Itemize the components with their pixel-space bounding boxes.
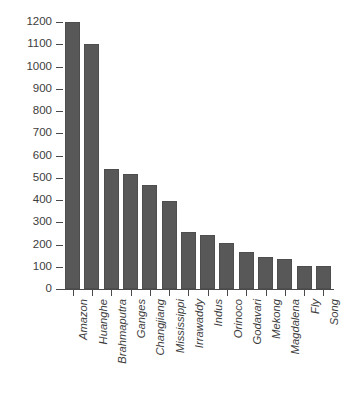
y-axis-tick-label: 1000 [26, 61, 52, 73]
y-axis-tick [56, 67, 63, 68]
y-axis-tick [56, 222, 63, 223]
y-axis-tick-label: 0 [46, 283, 52, 295]
bar [219, 243, 234, 289]
x-axis-tick-label: Amazon [77, 299, 90, 397]
x-axis-tick [266, 290, 267, 296]
y-axis-tick-label: 200 [33, 239, 52, 251]
bar [104, 169, 119, 289]
x-axis-tick [169, 290, 170, 296]
x-axis-tick [111, 290, 112, 296]
bar [181, 232, 196, 289]
y-axis-tick-label: 500 [33, 172, 52, 184]
bar [123, 174, 138, 289]
x-axis-tick-label: Brahmaputra [116, 299, 129, 397]
bar [142, 185, 157, 289]
y-axis-tick [56, 133, 63, 134]
y-axis-tick-label: 400 [33, 194, 52, 206]
bar [258, 257, 273, 289]
bar [297, 266, 312, 289]
x-axis-tick-label: Indus [212, 299, 225, 397]
x-axis-tick-label: Changjiang [154, 299, 167, 397]
x-axis-tick-label: Magdalena [289, 299, 302, 397]
bar [316, 266, 331, 289]
x-axis-tick-label: Fly [309, 299, 322, 397]
y-axis-tick [56, 267, 63, 268]
y-axis-tick [56, 22, 63, 23]
x-axis-tick [323, 290, 324, 296]
y-axis-tick-label: 900 [33, 83, 52, 95]
y-axis-tick [56, 111, 63, 112]
x-axis-tick-label: Godavari [251, 299, 264, 397]
y-axis-tick-label: 1100 [27, 38, 52, 50]
x-axis-tick [208, 290, 209, 296]
x-axis-tick [227, 290, 228, 296]
x-axis-tick [92, 290, 93, 296]
x-axis-tick-label: Irrawaddy [193, 299, 206, 397]
x-axis-tick [246, 290, 247, 296]
bar [162, 201, 177, 289]
bar [239, 252, 254, 289]
bar [65, 22, 80, 289]
y-axis-tick [56, 200, 63, 201]
y-axis-tick [56, 245, 63, 246]
bar [277, 259, 292, 289]
y-axis-tick-label: 1200 [26, 16, 52, 28]
chart-figure: Sediment load (Mt yr-1) 0100200300400500… [0, 0, 345, 397]
bar [84, 44, 99, 289]
y-axis-tick [56, 89, 63, 90]
bar [200, 235, 215, 289]
x-axis-tick [73, 290, 74, 296]
x-axis-tick-label: Huanghe [97, 299, 110, 397]
x-axis-line [63, 289, 334, 290]
y-axis-tick [56, 289, 63, 290]
y-axis-tick-label: 100 [33, 261, 52, 273]
y-axis-tick [56, 156, 63, 157]
y-axis-tick-label: 700 [33, 127, 52, 139]
x-axis-tick-label: Mekong [270, 299, 283, 397]
y-axis-tick-label: 300 [33, 216, 52, 228]
x-axis-tick-label: Ganges [135, 299, 148, 397]
x-axis-tick [150, 290, 151, 296]
x-axis-tick [285, 290, 286, 296]
y-axis-tick-label: 600 [33, 150, 52, 162]
x-axis-tick [131, 290, 132, 296]
x-axis-tick-label: Orinoco [232, 299, 245, 397]
y-axis-tick [56, 178, 63, 179]
x-axis-tick-label: Mississippi [174, 299, 187, 397]
x-axis-tick [304, 290, 305, 296]
x-axis-tick-label: Song [328, 299, 341, 397]
y-axis-tick [56, 44, 63, 45]
x-axis-tick [188, 290, 189, 296]
y-axis-tick-label: 800 [33, 105, 52, 117]
plot-area [63, 22, 333, 289]
